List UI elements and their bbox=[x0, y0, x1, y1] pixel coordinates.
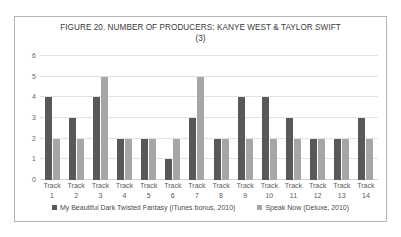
bar[interactable] bbox=[197, 77, 204, 180]
chart-container: FIGURE 20. NUMBER OF PRODUCERS: KANYE WE… bbox=[14, 16, 387, 222]
y-axis-tick-label: 3 bbox=[32, 114, 36, 121]
x-tick-prefix: Track bbox=[92, 182, 109, 189]
y-axis-tick-label: 2 bbox=[32, 134, 36, 141]
bar[interactable] bbox=[165, 159, 172, 180]
x-tick-prefix: Track bbox=[309, 182, 326, 189]
x-tick-prefix: Track bbox=[140, 182, 157, 189]
chart-legend: My Beautiful Dark Twisted Fantasy (iTune… bbox=[15, 204, 386, 211]
bar-group bbox=[209, 56, 233, 180]
x-axis-tick-label: Track12 bbox=[306, 181, 330, 200]
bar[interactable] bbox=[294, 139, 301, 180]
bar[interactable] bbox=[334, 139, 341, 180]
x-tick-number: 3 bbox=[88, 191, 112, 201]
bar[interactable] bbox=[45, 97, 52, 180]
x-axis-tick-label: Track3 bbox=[88, 181, 112, 200]
plot-area: 6543210 bbox=[40, 56, 378, 180]
x-tick-prefix: Track bbox=[164, 182, 181, 189]
bar[interactable] bbox=[342, 139, 349, 180]
bar-group bbox=[112, 56, 136, 180]
x-tick-prefix: Track bbox=[237, 182, 254, 189]
x-tick-prefix: Track bbox=[212, 182, 229, 189]
legend-swatch-icon bbox=[52, 205, 57, 210]
bar[interactable] bbox=[310, 139, 317, 180]
x-tick-prefix: Track bbox=[188, 182, 205, 189]
x-axis-tick-label: Track5 bbox=[137, 181, 161, 200]
x-axis-tick-label: Track4 bbox=[112, 181, 136, 200]
bar-group bbox=[88, 56, 112, 180]
bar[interactable] bbox=[149, 139, 156, 180]
y-axis-tick-label: 1 bbox=[32, 155, 36, 162]
bar[interactable] bbox=[366, 139, 373, 180]
bar-group bbox=[40, 56, 64, 180]
x-axis-tick-label: Track9 bbox=[233, 181, 257, 200]
x-tick-prefix: Track bbox=[261, 182, 278, 189]
bar[interactable] bbox=[189, 118, 196, 180]
bars-layer bbox=[40, 56, 378, 180]
x-tick-number: 9 bbox=[233, 191, 257, 201]
x-tick-prefix: Track bbox=[357, 182, 374, 189]
bar-group bbox=[161, 56, 185, 180]
x-tick-prefix: Track bbox=[68, 182, 85, 189]
x-axis-tick-label: Track10 bbox=[257, 181, 281, 200]
bar-group bbox=[257, 56, 281, 180]
bar-group bbox=[330, 56, 354, 180]
bar[interactable] bbox=[214, 139, 221, 180]
bar[interactable] bbox=[69, 118, 76, 180]
y-axis-tick-label: 5 bbox=[32, 72, 36, 79]
x-tick-prefix: Track bbox=[333, 182, 350, 189]
bar[interactable] bbox=[286, 118, 293, 180]
bar[interactable] bbox=[262, 97, 269, 180]
x-tick-number: 7 bbox=[185, 191, 209, 201]
bar[interactable] bbox=[117, 139, 124, 180]
bar-group bbox=[64, 56, 88, 180]
bar[interactable] bbox=[77, 139, 84, 180]
x-axis-tick-label: Track11 bbox=[281, 181, 305, 200]
legend-item[interactable]: Speak Now (Deluxe, 2010) bbox=[257, 204, 349, 211]
x-axis-tick-label: Track1 bbox=[40, 181, 64, 200]
bar[interactable] bbox=[53, 139, 60, 180]
x-tick-number: 6 bbox=[161, 191, 185, 201]
bar[interactable] bbox=[101, 77, 108, 180]
legend-item[interactable]: My Beautiful Dark Twisted Fantasy (iTune… bbox=[52, 204, 235, 211]
bar[interactable] bbox=[173, 139, 180, 180]
bar-group bbox=[233, 56, 257, 180]
chart-title-line-1: FIGURE 20. NUMBER OF PRODUCERS: KANYE WE… bbox=[60, 23, 341, 32]
bar[interactable] bbox=[246, 139, 253, 180]
legend-swatch-icon bbox=[257, 205, 262, 210]
bar[interactable] bbox=[238, 97, 245, 180]
bar[interactable] bbox=[93, 97, 100, 180]
bar[interactable] bbox=[125, 139, 132, 180]
bar-group bbox=[137, 56, 161, 180]
x-axis-tick-labels: Track1Track2Track3Track4Track5Track6Trac… bbox=[40, 181, 378, 200]
legend-label: My Beautiful Dark Twisted Fantasy (iTune… bbox=[60, 204, 235, 211]
x-tick-prefix: Track bbox=[43, 182, 60, 189]
x-tick-prefix: Track bbox=[285, 182, 302, 189]
x-tick-number: 8 bbox=[209, 191, 233, 201]
y-axis-tick-label: 6 bbox=[32, 52, 36, 59]
bar-group bbox=[306, 56, 330, 180]
y-axis-tick-label: 4 bbox=[32, 93, 36, 100]
x-tick-number: 10 bbox=[257, 191, 281, 201]
x-tick-number: 2 bbox=[64, 191, 88, 201]
x-tick-number: 12 bbox=[306, 191, 330, 201]
x-tick-number: 5 bbox=[137, 191, 161, 201]
bar[interactable] bbox=[358, 118, 365, 180]
bar[interactable] bbox=[141, 139, 148, 180]
bar[interactable] bbox=[222, 139, 229, 180]
x-tick-prefix: Track bbox=[116, 182, 133, 189]
bar[interactable] bbox=[318, 139, 325, 180]
x-axis-tick-label: Track14 bbox=[354, 181, 378, 200]
x-tick-number: 11 bbox=[281, 191, 305, 201]
legend-label: Speak Now (Deluxe, 2010) bbox=[265, 204, 349, 211]
bar-group bbox=[354, 56, 378, 180]
x-axis-tick-label: Track2 bbox=[64, 181, 88, 200]
bar[interactable] bbox=[270, 139, 277, 180]
chart-title: FIGURE 20. NUMBER OF PRODUCERS: KANYE WE… bbox=[15, 22, 386, 44]
x-axis-tick-label: Track13 bbox=[330, 181, 354, 200]
x-tick-number: 13 bbox=[330, 191, 354, 201]
bar-group bbox=[185, 56, 209, 180]
x-tick-number: 14 bbox=[354, 191, 378, 201]
x-tick-number: 1 bbox=[40, 191, 64, 201]
y-axis-tick-label: 0 bbox=[32, 176, 36, 183]
x-axis-tick-label: Track7 bbox=[185, 181, 209, 200]
